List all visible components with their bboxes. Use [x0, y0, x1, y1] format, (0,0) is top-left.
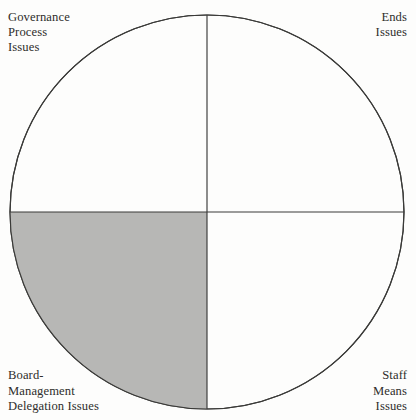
quadrant-diagram: Governance Process Issues Ends Issues Bo…	[0, 0, 416, 420]
label-line: Issues	[373, 399, 407, 414]
label-line: Governance	[8, 10, 70, 25]
label-line: Issues	[376, 25, 407, 40]
quadrant-label-board-management-delegation-issues: Board- Management Delegation Issues	[8, 368, 99, 414]
label-line: Board-	[8, 368, 99, 383]
label-line: Ends	[376, 10, 407, 25]
quadrant-label-staff-means-issues: Staff Means Issues	[373, 368, 407, 414]
label-line: Means	[373, 384, 407, 399]
label-line: Issues	[8, 40, 70, 55]
label-line: Management	[8, 384, 99, 399]
label-line: Delegation Issues	[8, 399, 99, 414]
quadrant-label-ends-issues: Ends Issues	[376, 10, 407, 40]
label-line: Process	[8, 25, 70, 40]
quadrant-label-governance-process-issues: Governance Process Issues	[8, 10, 70, 56]
quadrant-circle-graphic	[0, 0, 416, 420]
label-line: Staff	[373, 368, 407, 383]
